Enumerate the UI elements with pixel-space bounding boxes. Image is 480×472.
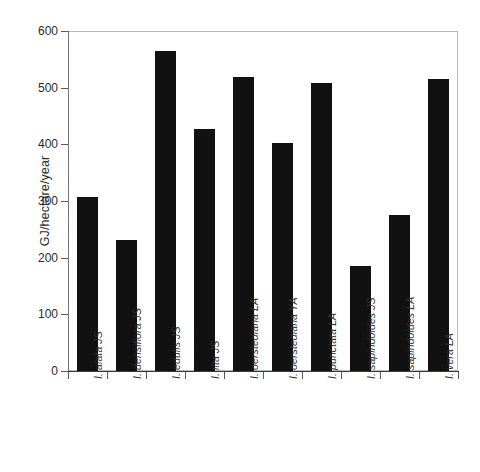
x-tick-label: I. edulis JS xyxy=(170,326,182,379)
x-tick-label: I. sapindoides JS xyxy=(365,297,377,379)
x-tick-label: I. oerstediana LA xyxy=(248,298,260,379)
x-axis-tick-labels: I. alata JSI. densiflora JSI. edulis JSI… xyxy=(0,0,480,472)
x-tick-label: I. sapindoides LA xyxy=(404,297,416,379)
x-tick-label: I. oerstediana YA xyxy=(287,298,299,379)
x-tick-label: I. densiflora JS xyxy=(131,308,143,379)
x-tick-label: I. punctata LA xyxy=(326,313,338,379)
x-tick-label: I. ilta JS xyxy=(209,341,221,379)
x-tick-label: I. vera LA xyxy=(443,333,455,379)
x-tick-label: I. alata JS xyxy=(92,331,104,379)
bar-chart: GJ/hectare/year 0100200300400500600 I. a… xyxy=(0,0,480,472)
